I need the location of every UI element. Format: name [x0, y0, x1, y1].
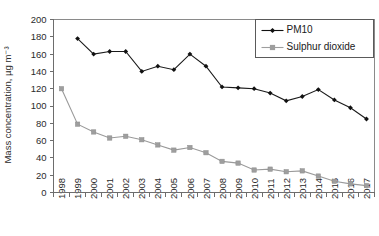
- x-tick-label: 2010: [249, 178, 260, 199]
- data-point-marker: [188, 145, 192, 149]
- data-point-marker: [252, 86, 257, 91]
- y-tick-label: 20: [36, 170, 47, 181]
- data-point-marker: [236, 85, 241, 90]
- data-point-marker: [364, 183, 368, 187]
- data-point-marker: [284, 170, 288, 174]
- chart-container: Mass concentration, µg m⁻³ 0204060801001…: [0, 0, 379, 236]
- y-tick-label: 120: [31, 83, 47, 94]
- y-axis-ticks: 020406080100120140160180200: [31, 14, 54, 198]
- y-tick-label: 160: [31, 49, 47, 60]
- line-chart: Mass concentration, µg m⁻³ 0204060801001…: [0, 0, 379, 236]
- data-point-marker: [348, 182, 352, 186]
- data-point-marker: [284, 98, 289, 103]
- data-point-marker: [220, 159, 224, 163]
- x-tick-label: 2008: [217, 178, 228, 199]
- x-tick-label: 2003: [136, 178, 147, 199]
- y-axis-title: Mass concentration, µg m⁻³: [2, 46, 13, 163]
- data-point-marker: [156, 143, 160, 147]
- data-point-marker: [268, 91, 273, 96]
- legend-label: Sulphur dioxide: [287, 41, 356, 52]
- data-point-marker: [59, 87, 63, 91]
- data-point-marker: [155, 64, 160, 69]
- x-axis-ticks: 1998199920002001200220032004200520062007…: [54, 178, 375, 199]
- data-point-marker: [332, 179, 336, 183]
- data-point-marker: [107, 136, 111, 140]
- y-tick-label: 200: [31, 14, 47, 25]
- y-tick-label: 40: [36, 152, 47, 163]
- x-tick-label: 2007: [201, 178, 212, 199]
- x-tick-label: 2013: [297, 178, 308, 199]
- data-point-marker: [91, 130, 95, 134]
- y-tick-label: 60: [36, 135, 47, 146]
- data-point-marker: [300, 94, 305, 99]
- y-tick-label: 180: [31, 31, 47, 42]
- x-tick-label: 1999: [72, 178, 83, 199]
- x-tick-label: 2001: [104, 178, 115, 199]
- data-point-marker: [172, 148, 176, 152]
- y-tick-label: 0: [41, 187, 46, 198]
- y-tick-label: 140: [31, 66, 47, 77]
- data-point-marker: [316, 174, 320, 178]
- y-tick-label: 100: [31, 100, 47, 111]
- x-tick-label: 2002: [120, 178, 131, 199]
- data-point-marker: [300, 169, 304, 173]
- x-tick-label: 2004: [152, 178, 163, 199]
- data-point-marker: [140, 138, 144, 142]
- legend-label: PM10: [287, 24, 314, 35]
- legend-marker-square-icon: [270, 45, 275, 50]
- x-tick-label: 2016: [345, 178, 356, 199]
- x-tick-label: 2006: [185, 178, 196, 199]
- y-tick-label: 80: [36, 118, 47, 129]
- x-tick-label: 2009: [233, 178, 244, 199]
- chart-legend: PM10Sulphur dioxide: [256, 20, 374, 58]
- data-point-marker: [124, 134, 128, 138]
- x-tick-label: 2005: [168, 178, 179, 199]
- x-tick-label: 2011: [265, 179, 276, 199]
- x-tick-label: 2014: [313, 178, 324, 199]
- x-tick-label: 2012: [281, 178, 292, 199]
- data-point-marker: [268, 167, 272, 171]
- data-point-marker: [252, 168, 256, 172]
- series-sulphur-dioxide: [59, 87, 368, 188]
- x-tick-label: 2017: [361, 178, 372, 199]
- data-point-marker: [75, 122, 79, 126]
- x-tick-label: 1998: [56, 178, 67, 199]
- data-point-marker: [204, 151, 208, 155]
- data-point-marker: [236, 161, 240, 165]
- data-point-marker: [107, 49, 112, 54]
- y-axis-title-label: Mass concentration, µg m⁻³: [2, 46, 13, 163]
- x-tick-label: 2000: [88, 178, 99, 199]
